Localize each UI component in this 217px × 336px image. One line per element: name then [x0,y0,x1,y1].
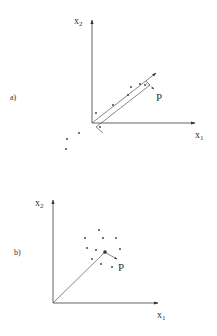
point-label-p-b: P [118,261,124,273]
data-points-b [84,229,121,268]
perp-tick-a [96,127,103,133]
principal-vector-a [92,73,156,123]
x1-axis-label-b: x1 [157,309,166,322]
point-label-p-a: P [156,91,162,103]
projection-arrow-a [146,83,154,89]
x1-axis-label-a: x1 [195,129,204,142]
panel-a: a) x2 x1 P [10,15,204,150]
panel-b: b) x2 x1 P [14,197,166,322]
data-points-a [65,83,146,150]
panel-a-label: a) [10,93,17,102]
arrow-to-p-b [106,253,117,259]
x2-axis-label-a: x2 [74,15,83,28]
panel-b-label: b) [14,248,21,257]
band-line-a [96,85,150,127]
diagram-canvas: a) x2 x1 P b) [0,0,217,336]
mean-vector-b [53,253,104,303]
x2-axis-label-b: x2 [35,197,44,210]
